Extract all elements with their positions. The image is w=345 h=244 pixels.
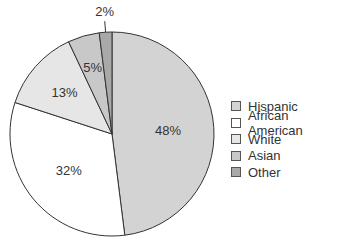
legend-label: Other — [248, 165, 281, 180]
legend-label: Asian — [248, 148, 281, 163]
legend-item-asian: Asian — [231, 148, 345, 165]
legend-swatch — [231, 134, 241, 144]
legend-swatch — [231, 118, 241, 128]
legend-swatch — [231, 101, 241, 111]
legend-swatch — [231, 167, 241, 177]
slice-label: 13% — [52, 85, 78, 100]
legend-swatch — [231, 151, 241, 161]
slice-label: 48% — [155, 123, 181, 138]
slice-label: 2% — [95, 4, 114, 19]
slice-label: 5% — [83, 60, 102, 75]
legend-item-african-american: African American — [231, 115, 345, 132]
slice-label: 32% — [56, 163, 82, 178]
legend-item-other: Other — [231, 164, 345, 181]
legend: Hispanic African American White Asian Ot… — [231, 98, 345, 181]
leader-line — [105, 21, 106, 32]
legend-label: White — [248, 132, 281, 147]
